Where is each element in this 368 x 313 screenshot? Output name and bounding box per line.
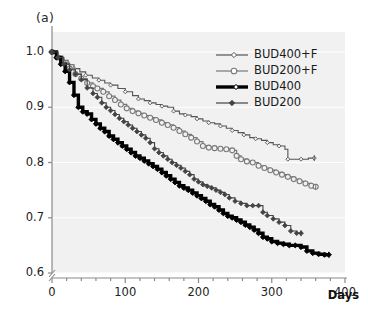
data-marker <box>262 166 267 171</box>
data-marker <box>304 248 309 253</box>
data-marker <box>224 147 229 152</box>
x-tick-label: 300 <box>255 285 289 299</box>
data-marker <box>165 122 170 127</box>
data-marker <box>195 117 199 121</box>
data-marker <box>293 243 298 248</box>
data-marker <box>84 73 88 77</box>
data-marker <box>112 98 117 103</box>
data-marker <box>297 179 302 184</box>
data-marker <box>139 132 144 137</box>
legend-point <box>231 52 236 57</box>
y-tick-label: 0.7 <box>14 210 44 224</box>
data-marker <box>108 108 113 113</box>
data-marker <box>183 132 188 137</box>
legend-item-bud400: BUD400 <box>215 78 357 94</box>
data-marker <box>179 166 184 171</box>
y-tick-label: 1.0 <box>14 44 44 58</box>
data-marker <box>142 113 147 118</box>
data-marker <box>230 148 235 153</box>
data-marker <box>113 112 118 117</box>
data-marker <box>117 116 122 121</box>
data-marker <box>109 83 113 87</box>
data-marker <box>268 168 273 173</box>
data-marker <box>286 157 290 161</box>
data-marker <box>67 80 72 85</box>
data-marker <box>126 123 131 128</box>
data-marker <box>271 216 276 221</box>
data-marker <box>101 89 106 94</box>
data-marker <box>148 101 152 105</box>
data-marker <box>280 172 285 177</box>
data-marker <box>261 210 266 215</box>
data-marker <box>206 145 211 150</box>
legend-item-bud200-plusf: BUD200+F <box>215 62 357 78</box>
data-marker <box>274 170 279 175</box>
data-marker <box>76 105 81 110</box>
legend-marker-icon <box>215 95 249 109</box>
data-marker <box>165 157 170 162</box>
x-tick-label: 200 <box>182 285 216 299</box>
data-marker <box>89 117 94 122</box>
legend-marker-icon <box>215 79 249 93</box>
data-marker <box>107 94 112 99</box>
data-marker <box>227 195 232 200</box>
data-marker <box>187 172 192 177</box>
data-marker <box>291 177 296 182</box>
data-marker <box>192 177 197 182</box>
data-marker <box>212 146 217 151</box>
y-tick-label: 0.6 <box>14 265 44 279</box>
chart-legend: BUD400+FBUD200+FBUD400BUD200 <box>215 46 357 110</box>
data-marker <box>250 203 255 208</box>
data-marker <box>242 133 246 137</box>
x-tick-label: 100 <box>108 285 142 299</box>
data-marker <box>118 102 123 107</box>
legend-label: BUD200 <box>254 95 301 109</box>
data-marker <box>277 220 282 225</box>
data-marker <box>177 129 182 134</box>
legend-marker-icon <box>215 63 249 77</box>
legend-label: BUD400+F <box>254 47 317 61</box>
data-marker <box>196 179 201 184</box>
legend-label: BUD400 <box>254 79 301 93</box>
survival-curve-figure: (a) 0.60.70.80.91.0 0100200300400 Days B… <box>0 0 368 313</box>
data-marker <box>200 143 205 148</box>
data-marker <box>104 105 109 110</box>
data-marker <box>130 109 135 114</box>
data-marker <box>161 153 166 158</box>
data-marker <box>124 106 129 111</box>
y-tick-label: 0.9 <box>14 99 44 113</box>
data-marker <box>95 95 100 100</box>
data-marker <box>71 92 76 97</box>
data-marker <box>148 140 153 145</box>
data-marker <box>244 159 249 164</box>
legend-point <box>234 84 239 89</box>
legend-item-bud200: BUD200 <box>215 94 357 110</box>
data-marker <box>256 203 261 208</box>
data-marker <box>234 153 239 158</box>
data-marker <box>135 129 140 134</box>
data-marker <box>130 126 135 131</box>
data-marker <box>288 229 293 234</box>
legend-point <box>229 100 235 106</box>
data-marker <box>174 163 179 168</box>
data-marker <box>93 121 98 126</box>
data-marker <box>157 150 162 155</box>
data-marker <box>136 111 141 116</box>
data-marker <box>170 160 175 165</box>
y-tick-label: 0.8 <box>14 155 44 169</box>
data-marker <box>250 160 255 165</box>
legend-label: BUD200+F <box>254 63 317 77</box>
data-marker <box>143 136 148 141</box>
data-marker <box>230 128 234 132</box>
x-tick-label: 0 <box>35 285 69 299</box>
data-marker <box>107 133 112 138</box>
data-marker <box>148 115 153 120</box>
data-marker <box>85 86 90 91</box>
data-marker <box>303 181 308 186</box>
data-marker <box>218 124 222 128</box>
x-axis-title: Days <box>328 288 359 302</box>
data-marker <box>136 97 140 101</box>
data-marker <box>238 157 243 162</box>
data-marker <box>172 109 176 113</box>
data-marker <box>218 146 223 151</box>
